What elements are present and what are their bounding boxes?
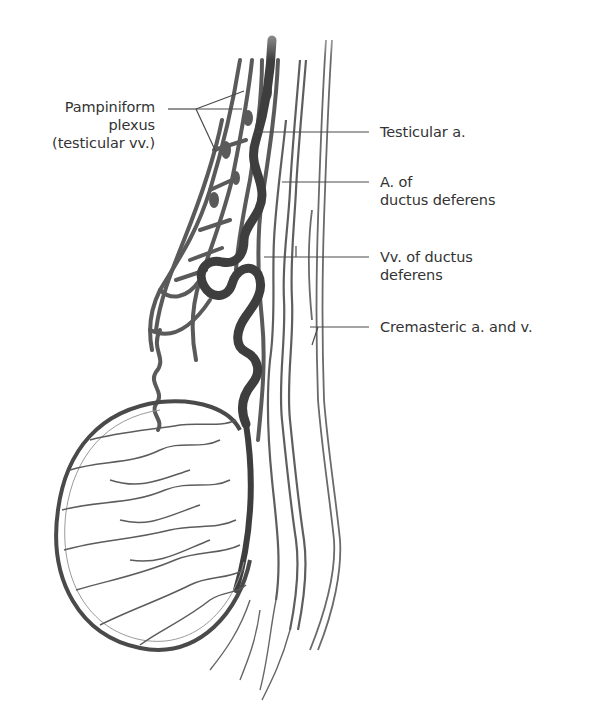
label-line: ductus deferens	[380, 191, 495, 209]
label-line: Vv. of ductus	[380, 248, 473, 266]
label-line: deferens	[380, 266, 473, 284]
intratesticular-branches	[62, 420, 246, 645]
label-line: Testicular a.	[380, 123, 465, 141]
label-line: Cremasteric a. and v.	[380, 318, 532, 336]
label-line: (testicular vv.)	[40, 134, 155, 152]
ductus-deferens-vessels	[268, 60, 306, 630]
label-line: Pampiniform	[40, 98, 155, 116]
label-veins-of-ductus-deferens: Vv. of ductus deferens	[380, 248, 473, 284]
label-line: plexus	[40, 116, 155, 134]
label-line: A. of	[380, 173, 495, 191]
label-pampiniform-plexus: Pampiniform plexus (testicular vv.)	[40, 98, 155, 152]
label-artery-of-ductus-deferens: A. of ductus deferens	[380, 173, 495, 209]
label-cremasteric-vessels: Cremasteric a. and v.	[380, 318, 532, 336]
label-testicular-artery: Testicular a.	[380, 123, 465, 141]
lower-spermatic-branches	[210, 600, 290, 700]
